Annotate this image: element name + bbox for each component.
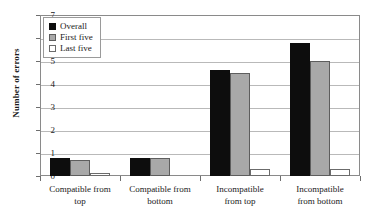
bar-lastfive <box>90 173 110 176</box>
legend-item: Overall <box>49 21 93 32</box>
bar-overall <box>130 158 150 176</box>
legend-item: Last five <box>49 43 93 54</box>
legend-item: First five <box>49 32 93 43</box>
legend-item-label: Last five <box>60 44 92 53</box>
x-axis-label-line: Compatible from <box>114 184 206 196</box>
x-tick-mark <box>360 176 361 181</box>
x-tick-mark <box>40 176 41 181</box>
x-axis-label: Incompatiblefrom bottom <box>274 184 366 207</box>
y-axis-title: Number of errors <box>11 23 21 143</box>
bar-overall <box>50 158 70 176</box>
legend-item-label: First five <box>60 33 93 42</box>
x-axis-label-line: top <box>34 196 126 208</box>
white-square-icon <box>49 45 56 52</box>
x-axis-label-line: bottom <box>114 196 206 208</box>
bar-firstfive <box>70 160 90 176</box>
x-axis-label: Incompatiblefrom top <box>194 184 286 207</box>
bar-firstfive <box>150 158 170 176</box>
bar-group <box>200 15 280 176</box>
x-axis-label: Compatible fromtop <box>34 184 126 207</box>
bar-group <box>280 15 360 176</box>
x-axis-label-line: from top <box>194 196 286 208</box>
x-axis-label-line: Incompatible <box>194 184 286 196</box>
bar-lastfive <box>250 169 270 176</box>
bar-firstfive <box>230 73 250 177</box>
x-axis-label-line: Incompatible <box>274 184 366 196</box>
x-axis-label-line: from bottom <box>274 196 366 208</box>
bar-firstfive <box>310 61 330 176</box>
x-tick-mark <box>200 176 201 181</box>
legend-item-label: Overall <box>60 22 87 31</box>
bar-group <box>120 15 200 176</box>
x-axis-label-line: Compatible from <box>34 184 126 196</box>
x-tick-mark <box>120 176 121 181</box>
black-square-icon <box>49 23 56 30</box>
bar-overall <box>290 43 310 176</box>
bar-lastfive <box>330 169 350 176</box>
gray-square-icon <box>49 34 56 41</box>
bar-chart: Number of errors 01234567 Compatible fro… <box>0 0 371 224</box>
chart-legend: OverallFirst fiveLast five <box>43 17 101 58</box>
bar-overall <box>210 70 230 176</box>
x-tick-mark <box>280 176 281 181</box>
x-axis-label: Compatible frombottom <box>114 184 206 207</box>
